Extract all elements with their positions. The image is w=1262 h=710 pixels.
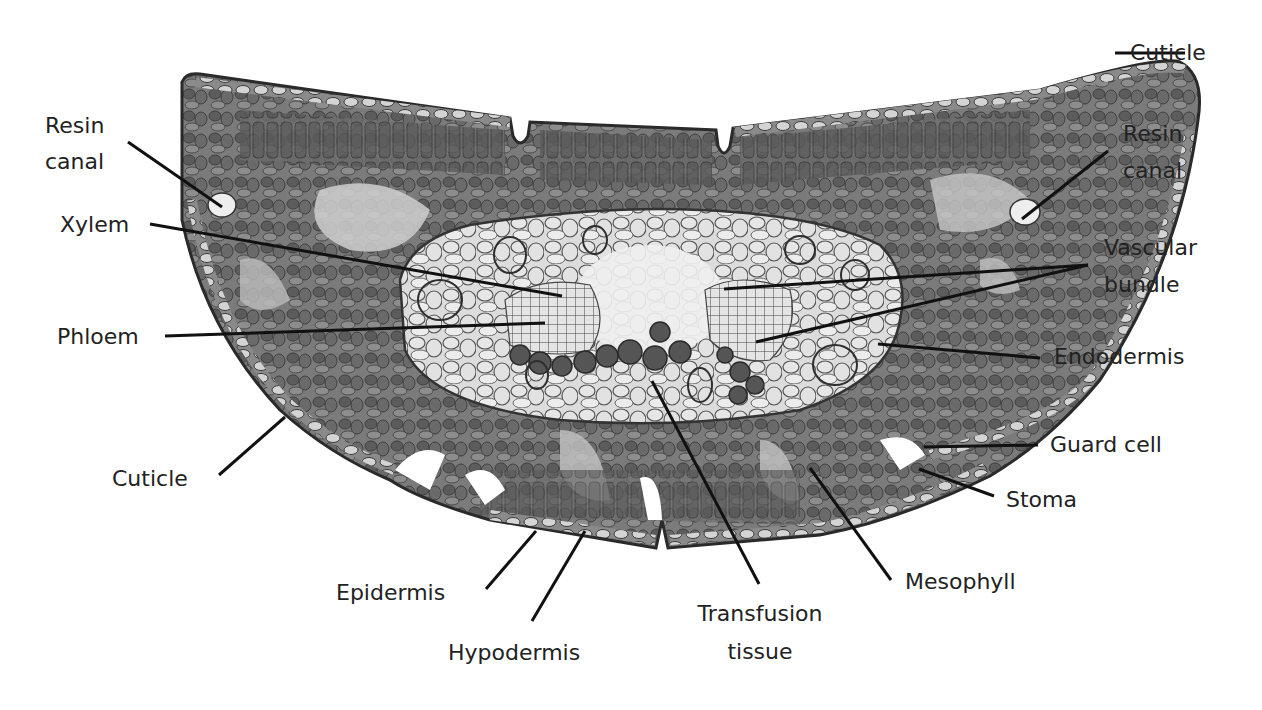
pine-needle-cross-section-diagram: Cuticle Resin canal Resin canal Xylem Ph… — [0, 0, 1262, 710]
label-resin-canal-right-line2: canal — [1123, 155, 1182, 187]
leader-epidermis — [486, 531, 536, 589]
label-resin-canal-left-line1: Resin — [45, 110, 104, 142]
label-stoma: Stoma — [1006, 484, 1077, 516]
leader-hypodermis — [532, 531, 585, 621]
label-epidermis: Epidermis — [336, 577, 445, 609]
label-phloem: Phloem — [57, 321, 139, 353]
label-vascular-bundle-line1: Vascular — [1104, 232, 1197, 264]
label-xylem: Xylem — [60, 209, 129, 241]
label-resin-canal-left-line2: canal — [45, 146, 104, 178]
label-cuticle-bottom: Cuticle — [112, 463, 188, 495]
vascular-region — [400, 209, 903, 423]
resin-canal-left — [208, 193, 236, 217]
resin-canal-right — [1010, 199, 1040, 225]
label-cuticle-top: Cuticle — [1130, 37, 1206, 69]
label-mesophyll: Mesophyll — [905, 566, 1016, 598]
leader-cuticle-bottom — [219, 417, 285, 475]
label-guard-cell: Guard cell — [1050, 429, 1162, 461]
label-resin-canal-right-line1: Resin — [1123, 118, 1182, 150]
label-transfusion-tissue-line1: Transfusion — [680, 598, 840, 630]
leader-guard-cell — [924, 445, 1038, 447]
label-hypodermis: Hypodermis — [448, 637, 580, 669]
label-vascular-bundle-line2: bundle — [1104, 269, 1179, 301]
label-endodermis: Endodermis — [1054, 341, 1184, 373]
label-transfusion-tissue-line2: tissue — [680, 636, 840, 668]
